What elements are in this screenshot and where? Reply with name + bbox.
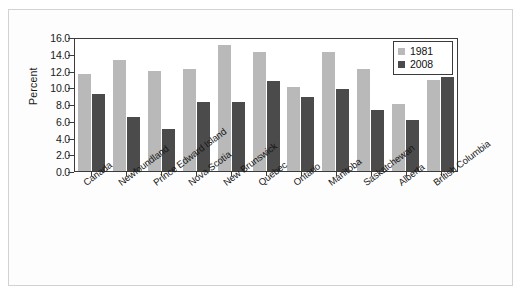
y-axis-tick-mark: [68, 172, 74, 173]
bar-2008-canada: [92, 94, 105, 171]
y-axis-tick-mark: [68, 88, 74, 89]
y-axis-tick-mark: [68, 55, 74, 56]
bar-2008-manitoba: [336, 89, 349, 171]
bar-group: [215, 39, 250, 171]
bar-2008-new-brunswick: [232, 102, 245, 171]
bar-1981-british-columbia: [427, 80, 440, 171]
bar-1981-canada: [78, 74, 91, 171]
bar-2008-ontario: [301, 97, 314, 171]
y-axis-tick-label: 16.0: [30, 32, 70, 44]
legend-item: 2008: [398, 58, 448, 71]
bar-1981-saskatchewan: [357, 69, 370, 171]
bar-1981-newfoundland: [113, 60, 126, 171]
bar-group: [284, 39, 319, 171]
y-axis-tick-mark: [68, 105, 74, 106]
bar-2008-british-columbia: [441, 77, 454, 171]
legend-label: 1981: [410, 46, 433, 57]
y-axis-tick-labels: 16.014.012.010.08.06.04.02.00.0: [30, 0, 70, 295]
y-axis-tick-label: 4.0: [30, 133, 70, 145]
y-axis-tick-mark: [68, 72, 74, 73]
legend-swatch-icon: [398, 61, 405, 68]
bar-group: [75, 39, 110, 171]
legend-item: 1981: [398, 45, 448, 58]
y-axis-tick-label: 2.0: [30, 149, 70, 161]
chart-screenshot: Percent 16.014.012.010.08.06.04.02.00.0 …: [0, 0, 523, 295]
y-axis-tick-label: 8.0: [30, 99, 70, 111]
bar-group: [110, 39, 145, 171]
bar-group: [319, 39, 354, 171]
y-axis-tick-mark: [68, 155, 74, 156]
legend-swatch-icon: [398, 48, 405, 55]
y-axis-tick-label: 6.0: [30, 116, 70, 128]
y-axis-tick-label: 12.0: [30, 66, 70, 78]
y-axis-tick-mark: [68, 38, 74, 39]
y-axis-tick-mark: [68, 122, 74, 123]
legend-label: 2008: [410, 59, 433, 70]
bar-1981-manitoba: [322, 52, 335, 171]
y-axis-tick-label: 14.0: [30, 49, 70, 61]
y-axis-tick-label: 0.0: [30, 166, 70, 178]
bar-2008-quebec: [267, 81, 280, 171]
bar-group: [354, 39, 389, 171]
bar-1981-ontario: [287, 87, 300, 171]
y-axis-tick-label: 10.0: [30, 82, 70, 94]
chart-legend: 19812008: [393, 41, 453, 75]
y-axis-tick-mark: [68, 139, 74, 140]
